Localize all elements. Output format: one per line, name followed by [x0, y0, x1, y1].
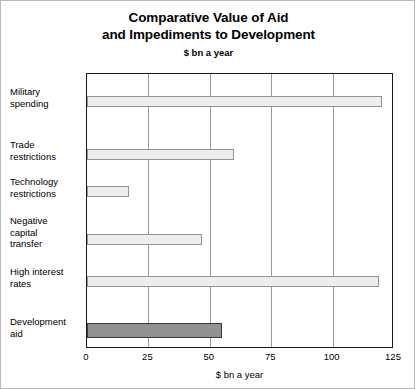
chart-page: Comparative Value of Aid and Impediments…	[0, 0, 415, 389]
gridline-25	[148, 74, 149, 347]
category-label-line: capital	[10, 227, 84, 239]
category-label-line: Trade	[10, 139, 84, 151]
category-label-technology-restrictions: Technology restrictions	[10, 176, 84, 199]
chart-subtitle: $ bn a year	[1, 47, 415, 58]
page-title: Comparative Value of Aid and Impediments…	[1, 9, 415, 43]
chart-title-line-1: Comparative Value of Aid	[1, 9, 415, 26]
category-label-line: restrictions	[10, 151, 84, 163]
gridline-100	[333, 74, 334, 347]
bar-technology-restrictions	[87, 186, 129, 197]
x-tick-25: 25	[127, 351, 167, 362]
category-label-line: spending	[10, 98, 84, 110]
plot-area	[86, 73, 393, 348]
x-tick-75: 75	[250, 351, 290, 362]
bar-negative-capital-transfer	[87, 234, 202, 245]
chart-title-block: Comparative Value of Aid and Impediments…	[1, 9, 415, 58]
category-label-line: Technology	[10, 176, 84, 188]
category-label-high-interest-rates: High interest rates	[10, 266, 84, 289]
category-label-line: restrictions	[10, 188, 84, 200]
category-label-line: aid	[10, 328, 84, 340]
x-tick-50: 50	[189, 351, 229, 362]
category-label-line: transfer	[10, 238, 84, 250]
category-label-line: rates	[10, 278, 84, 290]
x-tick-125: 125	[373, 351, 413, 362]
bar-high-interest-rates	[87, 276, 379, 287]
bar-trade-restrictions	[87, 149, 234, 160]
bar-military-spending	[87, 96, 382, 107]
x-tick-0: 0	[66, 351, 106, 362]
category-label-development-aid: Development aid	[10, 316, 84, 339]
category-label-negative-capital-transfer: Negative capital transfer	[10, 215, 84, 250]
bar-development-aid	[87, 323, 222, 338]
gridline-50	[210, 74, 211, 347]
category-label-line: Military	[10, 86, 84, 98]
chart-title-line-2: and Impediments to Development	[1, 26, 415, 43]
x-axis-title: $ bn a year	[86, 369, 393, 380]
category-label-trade-restrictions: Trade restrictions	[10, 139, 84, 162]
category-label-line: High interest	[10, 266, 84, 278]
gridline-75	[271, 74, 272, 347]
category-label-military-spending: Military spending	[10, 86, 84, 109]
x-tick-100: 100	[312, 351, 352, 362]
category-label-line: Development	[10, 316, 84, 328]
category-label-line: Negative	[10, 215, 84, 227]
